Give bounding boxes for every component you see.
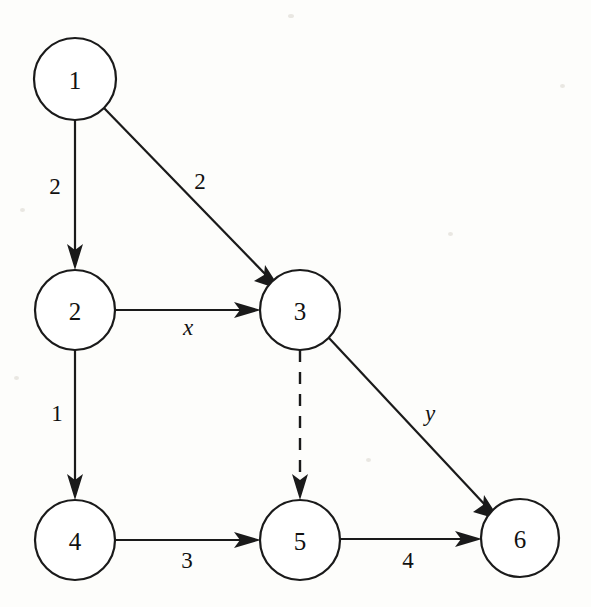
- node-3[interactable]: 3: [260, 270, 340, 350]
- node-6[interactable]: 6: [481, 499, 559, 577]
- edge-4-to-5[interactable]: 3: [115, 532, 261, 573]
- edge-1-to-2-label: 2: [49, 174, 61, 199]
- node-2-label: 2: [69, 298, 82, 325]
- node-4[interactable]: 4: [35, 500, 115, 580]
- edge-2-to-4[interactable]: 1: [51, 350, 83, 500]
- node-2[interactable]: 2: [35, 270, 115, 350]
- node-4-label: 4: [69, 528, 82, 555]
- edge-1-to-3[interactable]: 2: [104, 108, 281, 290]
- node-6-label: 6: [514, 526, 527, 553]
- edge-2-to-4-label: 1: [51, 401, 63, 426]
- graph-svg: 2 2 x 1 y: [0, 0, 591, 607]
- edge-1-to-2[interactable]: 2: [49, 120, 83, 270]
- node-5[interactable]: 5: [260, 500, 340, 580]
- edge-3-to-5[interactable]: [292, 350, 308, 500]
- edge-3-to-6-line: [329, 338, 487, 507]
- edge-3-to-6-label: y: [423, 401, 436, 426]
- node-1[interactable]: 1: [34, 38, 116, 120]
- graph-diagram-canvas: 2 2 x 1 y: [0, 0, 591, 607]
- edge-5-to-6[interactable]: 4: [340, 531, 482, 573]
- edge-4-to-5-label: 3: [181, 548, 193, 573]
- edge-3-to-6[interactable]: y: [329, 338, 500, 520]
- edge-3-to-5-arrowhead: [292, 474, 308, 500]
- node-5-label: 5: [294, 528, 307, 555]
- edge-2-to-3[interactable]: x: [115, 302, 261, 340]
- edge-1-to-3-label: 2: [194, 169, 206, 194]
- node-3-label: 3: [294, 298, 307, 325]
- edge-1-to-3-line: [104, 108, 268, 277]
- edge-5-to-6-label: 4: [402, 548, 414, 573]
- node-1-label: 1: [69, 67, 82, 94]
- edge-2-to-3-label: x: [182, 315, 194, 340]
